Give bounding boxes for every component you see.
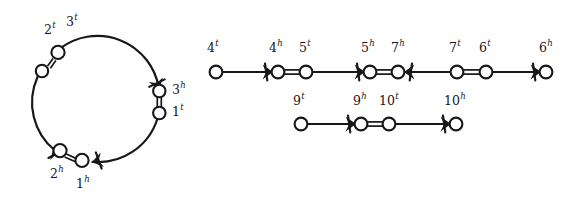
cycle-node-1h	[75, 154, 88, 167]
cycle-node-2h	[53, 144, 66, 157]
cycle-arc-2h-to-2t	[32, 77, 55, 151]
cycle-component	[32, 36, 167, 170]
label-5h: 5h	[361, 42, 375, 55]
node-5t	[300, 66, 313, 79]
node-7t	[451, 66, 464, 79]
lower-path-component	[295, 116, 463, 133]
label-4t: 4t	[207, 42, 218, 55]
label-5t: 5t	[299, 42, 310, 55]
node-10h	[450, 118, 463, 131]
label-3h: 3h	[172, 84, 186, 97]
label-6h: 6h	[539, 42, 553, 55]
label-4h: 4h	[269, 42, 283, 55]
node-5h	[364, 66, 377, 79]
label-2h: 2h	[50, 168, 64, 181]
label-7h: 7h	[391, 42, 405, 55]
label-6t: 6t	[479, 42, 490, 55]
connector-5h-7h	[377, 70, 392, 74]
connector-9h-10t	[368, 122, 383, 126]
node-6t	[480, 66, 493, 79]
diagram-canvas	[0, 0, 577, 198]
node-10t	[383, 118, 396, 131]
cycle-node-3h	[153, 85, 165, 97]
cycle-connector-2t-3t	[48, 58, 56, 68]
cycle-connector-3h-1t	[157, 97, 161, 107]
label-7t: 7t	[449, 42, 460, 55]
cycle-arc-3t-to-3h	[61, 36, 159, 87]
figure-root: 2t 3t 3h 1t 2h 1h 4t 4h 5t 5h 7h 7t 6t 6…	[0, 0, 577, 198]
upper-path-component	[210, 64, 553, 81]
node-7h	[392, 66, 405, 79]
cycle-node-3t	[51, 46, 64, 59]
label-10t: 10t	[379, 95, 398, 108]
connector-4h-5t	[285, 70, 300, 74]
node-4h	[272, 66, 285, 79]
node-9h	[355, 118, 368, 131]
label-1h: 1h	[76, 178, 90, 191]
label-9t: 9t	[293, 95, 304, 108]
label-2t: 2t	[44, 24, 55, 37]
label-10h: 10h	[444, 95, 465, 108]
node-4t	[210, 66, 223, 79]
label-1t: 1t	[172, 106, 183, 119]
label-3t: 3t	[66, 16, 77, 29]
node-9t	[295, 118, 308, 131]
cycle-arc-1t-to-1h	[93, 119, 158, 163]
connector-7t-6t	[464, 70, 480, 74]
label-9h: 9h	[353, 95, 367, 108]
cycle-node-1t	[153, 107, 165, 119]
node-6h	[540, 66, 553, 79]
cycle-node-2t	[36, 65, 48, 77]
